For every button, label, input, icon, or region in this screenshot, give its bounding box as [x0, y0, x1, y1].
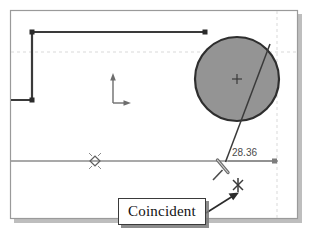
coincident-tooltip[interactable]: Coincident [118, 198, 206, 225]
coincident-tooltip-label: Coincident [128, 204, 196, 219]
polyline-vertex-handle[interactable] [30, 30, 35, 35]
dimension-endpoint-handle[interactable] [272, 159, 277, 164]
dimension-value[interactable]: 28.36 [232, 147, 257, 158]
polyline-vertex-handle[interactable] [30, 98, 35, 103]
polyline-vertex-handle[interactable] [203, 30, 208, 35]
cad-sketch-viewport: 28.36 Coincident [0, 0, 314, 242]
